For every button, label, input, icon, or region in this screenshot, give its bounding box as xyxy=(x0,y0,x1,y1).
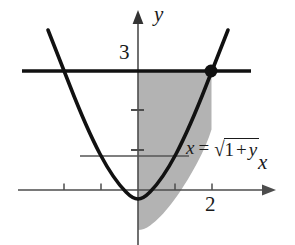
y-tick-label-3: 3 xyxy=(119,42,130,63)
radicand-first-term: 1 xyxy=(225,139,235,160)
intersection-point-marker xyxy=(205,65,218,78)
equation-annotation: x = √1+y xyxy=(186,138,259,159)
radicand-second-term: y xyxy=(249,139,257,160)
graph-canvas xyxy=(0,0,295,245)
equation-relation: = xyxy=(194,138,213,157)
graph-figure: y x 3 2 x = √1+y xyxy=(0,0,295,245)
radical-sign-icon: √ xyxy=(214,138,224,159)
x-tick-label-2: 2 xyxy=(205,194,216,215)
radicand-operator: + xyxy=(234,139,249,160)
x-axis-label: x xyxy=(258,152,267,173)
radical-expression: √1+y xyxy=(213,138,259,159)
equation-lhs: x xyxy=(186,138,194,157)
y-axis-label: y xyxy=(154,4,163,25)
radicand: 1+y xyxy=(224,138,260,159)
